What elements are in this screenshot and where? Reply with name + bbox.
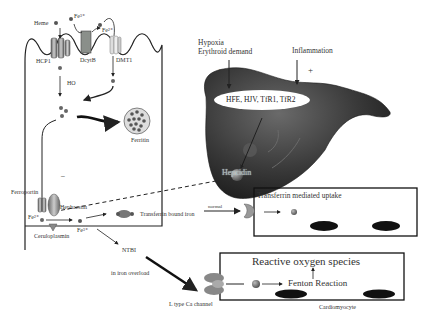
- iron-overload-label: in iron overload: [111, 270, 149, 276]
- heme-dot: [54, 21, 58, 25]
- dcytb-icon: [81, 31, 91, 53]
- heme-label: Heme: [34, 20, 48, 26]
- hephaestin-icon: [48, 194, 60, 216]
- hcp1-label: HCP1: [36, 58, 51, 64]
- labile-iron-pool: [59, 106, 68, 118]
- transferrin-receptor-icon: [244, 204, 255, 218]
- inflammation-label: Inflammation: [292, 47, 333, 55]
- fe3-label: Fe³⁺: [74, 13, 85, 19]
- liver-icon: [204, 68, 390, 199]
- l-type-ca-channel-icon: [204, 273, 224, 295]
- fe2-label: Fe²⁺: [102, 27, 113, 33]
- dmt1-label: DMT1: [116, 57, 132, 63]
- transferrin-bound-label: Transferrin bound iron: [140, 211, 194, 217]
- organelle-icon: [310, 221, 338, 231]
- ferritin-icon: [124, 108, 150, 134]
- ferroportin-icon: [38, 198, 46, 212]
- organelle-icon: [275, 290, 307, 299]
- fe2-export-dot: [40, 218, 44, 222]
- genes-label: HFE, HJV, TfR1, TfR2: [226, 96, 296, 104]
- hypoxia-label: Hypoxia: [198, 39, 224, 47]
- intracellular-iron-dot: [111, 79, 115, 83]
- transferrin-icon: [116, 210, 134, 218]
- enterocyte-minus-label: –: [61, 172, 65, 180]
- transferrin-uptake-title: Transferrin mediated uptake: [257, 192, 342, 200]
- hcp1-transporter-icon: [51, 38, 70, 58]
- dmt1-transporter-icon: [110, 36, 121, 54]
- ceruloplasmin-icon: [49, 224, 57, 231]
- intracellular-iron-dot: [58, 66, 62, 70]
- fe2-export-label: Fe²⁺: [28, 214, 39, 220]
- ho-label: HO: [67, 80, 76, 86]
- liver-minus-label: –: [219, 64, 224, 73]
- fe3-export-dot: [78, 219, 82, 223]
- ntbi-label: NTBI: [122, 247, 136, 253]
- liver-plus-label: +: [308, 66, 313, 75]
- iron-metabolism-diagram: Heme Fe³⁺ Fe²⁺ HCP1 DcytB DMT1 HO Ferrit…: [0, 0, 428, 318]
- hepcidin-label: Hepcidin: [222, 169, 251, 177]
- fenton-reaction-label: Fenton Reaction: [288, 279, 347, 288]
- ceruloplasmin-label: Ceruloplasmin: [34, 233, 69, 239]
- organelle-icon: [363, 290, 395, 299]
- erythroid-demand-label: Erythroid demand: [198, 48, 252, 56]
- ferritin-label: Ferritin: [131, 137, 149, 143]
- normal-label: normal: [208, 204, 222, 209]
- fe3-export-label: Fe³⁺: [77, 227, 88, 233]
- hephaestin-label: Hephaestin: [60, 204, 87, 210]
- dcytb-label: DcytB: [80, 57, 96, 63]
- ferroportin-label: Ferroportin: [11, 189, 38, 195]
- fe3-dot: [69, 17, 73, 21]
- ros-label: Reactive oxygen species: [252, 256, 360, 267]
- organelle-icon: [372, 221, 400, 231]
- l-type-ca-channel-label: L type Ca channel: [169, 301, 213, 307]
- cardiomyocyte-label: Cardiomyocyte: [319, 304, 356, 310]
